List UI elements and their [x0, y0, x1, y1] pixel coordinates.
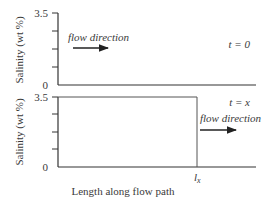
bottom-ytick-max: 3.5	[34, 91, 48, 103]
top-ytick-zero: 0	[43, 79, 49, 91]
top-y-axis-label: Salinity (wt %)	[13, 16, 26, 84]
top-flow-label: flow direction	[68, 31, 130, 43]
bottom-ytick-zero: 0	[43, 161, 49, 173]
bottom-y-ticks	[52, 97, 58, 149]
bottom-time-label: t = x	[229, 96, 250, 108]
front-position-label: lx	[194, 171, 201, 185]
bottom-y-axis-label: Salinity (wt %)	[13, 98, 26, 166]
top-y-ticks	[52, 13, 58, 67]
bottom-flow-label: flow direction	[200, 112, 262, 124]
x-axis-label: Length along flow path	[72, 185, 175, 197]
salinity-profile-line	[58, 97, 197, 167]
top-panel: 3.5 0 Salinity (wt %) flow direction t =…	[13, 7, 256, 91]
top-ytick-max: 3.5	[34, 7, 48, 19]
salinity-figure: 3.5 0 Salinity (wt %) flow direction t =…	[0, 0, 274, 212]
top-time-label: t = 0	[229, 38, 251, 50]
bottom-panel: 3.5 0 Salinity (wt %) t = x flow directi…	[13, 91, 262, 197]
